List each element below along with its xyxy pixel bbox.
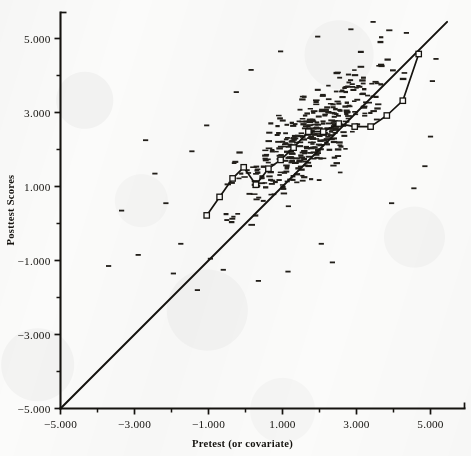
data-point [301,158,307,160]
data-point [308,108,313,110]
data-point [276,147,283,149]
data-point [329,131,333,133]
data-point [330,262,335,264]
data-point [119,210,124,212]
data-point [297,145,303,147]
data-point [404,32,409,34]
data-point [326,98,332,100]
data-point [289,162,294,164]
data-point [334,72,341,74]
data-point [293,162,299,164]
data-point [278,51,283,53]
data-point [283,132,288,134]
data-point [390,69,396,71]
data-point [189,150,194,152]
data-point [143,139,148,141]
data-point [303,125,308,127]
data-point [229,218,235,220]
data-point [266,140,273,142]
data-point [344,110,350,112]
y-axis-title: Posttest Scores [5,175,16,246]
data-point [334,91,339,93]
data-point [358,66,365,68]
data-point [263,159,269,161]
x-tick-label: −3.000 [118,418,151,430]
data-point [338,144,343,146]
data-point [269,183,275,185]
data-point [326,123,333,125]
binned-mean-marker [266,166,271,171]
data-point [374,107,380,109]
data-point [278,146,284,148]
data-point [341,135,347,137]
data-point [400,78,407,80]
data-point [303,115,307,117]
data-point [313,104,319,106]
data-point [336,115,341,117]
data-point [276,179,281,181]
data-point [277,117,283,119]
data-point [321,120,326,122]
data-point [343,148,347,150]
data-point [136,254,141,256]
data-point [335,101,341,103]
data-point [300,118,306,120]
data-point [261,200,266,202]
data-point [320,95,326,97]
data-point [268,179,273,181]
data-point [327,149,333,151]
data-point [337,77,342,79]
data-point [402,72,408,74]
binned-mean-marker [217,194,222,199]
data-point [285,124,290,126]
data-point [152,173,157,175]
data-point [342,105,348,107]
data-point [375,103,381,105]
data-point [255,169,261,171]
data-point [322,139,328,141]
y-tick-label: 5.000 [24,33,51,45]
data-point [248,224,255,226]
data-point [350,86,355,88]
data-point [313,101,318,103]
data-point [261,166,266,168]
data-point [348,79,353,81]
data-point [348,28,353,30]
data-point [266,162,271,164]
binned-mean-marker [241,165,246,170]
data-point [311,142,316,144]
data-point [302,152,307,154]
data-point [340,131,346,133]
data-point [332,157,338,159]
data-point [339,96,345,98]
data-point [275,125,279,127]
data-point [330,103,335,105]
data-point [241,176,247,178]
binned-mean-marker [384,113,389,118]
data-point [171,273,176,275]
data-point [345,102,349,104]
x-axis-title: Pretest (or covariate) [192,438,293,450]
data-point [411,187,416,189]
data-point [378,41,384,43]
data-point [231,216,235,218]
data-point [370,110,377,112]
data-point [307,137,312,139]
data-point [310,143,314,145]
data-point [311,110,318,112]
data-point [315,36,320,38]
scatter-points [106,21,439,291]
data-point [281,193,287,195]
data-point [234,91,239,93]
binned-mean-marker [321,129,326,134]
data-point [307,152,313,154]
data-point [348,106,352,108]
data-point [239,173,243,175]
binned-mean-marker [368,124,373,129]
binned-mean-marker [306,129,311,134]
data-point [433,58,438,60]
data-point [347,82,352,84]
data-point [285,167,289,169]
data-point [335,148,342,150]
data-point [236,151,242,153]
